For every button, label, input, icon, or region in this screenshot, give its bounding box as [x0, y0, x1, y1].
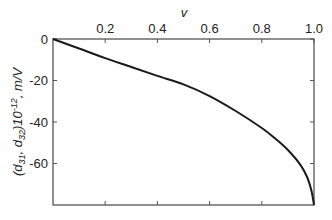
tick-labels: 0.20.40.60.81.00-20-40-60	[29, 21, 323, 171]
y-tick-label: -20	[29, 73, 48, 88]
x-axis-label: v	[181, 5, 189, 20]
line-chart: 0.20.40.60.81.00-20-40-60 v (d31, d32)10…	[0, 0, 332, 220]
y-tick-label: 0	[41, 32, 48, 47]
y-axis-label: (d31, d32)10-12, m/V	[9, 67, 27, 177]
y-tick-label: -40	[29, 115, 48, 130]
y-tick-label: -60	[29, 156, 48, 171]
x-tick-label: 0.6	[201, 21, 219, 36]
x-tick-label: 0.2	[96, 21, 114, 36]
data-line	[53, 39, 314, 205]
plot-frame	[53, 39, 314, 205]
axis-ticks	[53, 39, 314, 205]
plot-border	[53, 39, 314, 205]
x-tick-label: 0.4	[148, 21, 166, 36]
x-tick-label: 0.8	[253, 21, 271, 36]
x-tick-label: 1.0	[305, 21, 323, 36]
